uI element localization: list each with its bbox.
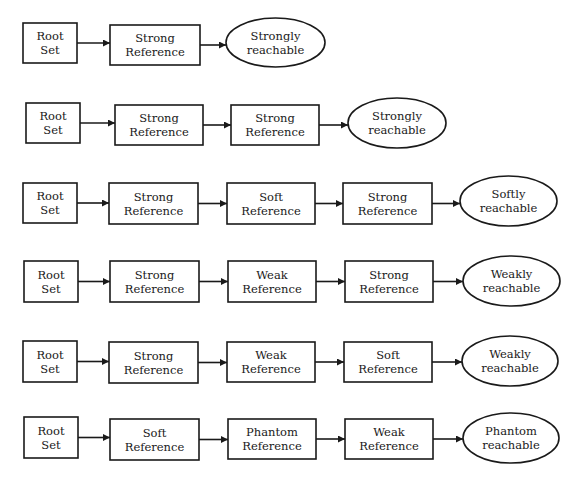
node-label-line: Reference <box>359 282 419 296</box>
node-label-line: reachable <box>482 438 540 452</box>
node-label-line: Reference <box>242 439 302 453</box>
node-label-line: Reference <box>125 282 185 296</box>
node-label-line: Weakly <box>491 267 533 281</box>
node-label-line: Reference <box>358 204 418 218</box>
reference-node-strong-reference: StrongReference <box>110 261 199 302</box>
node-label-line: Strongly <box>251 29 301 43</box>
chain-row: RootSetStrongReferenceWeakReferenceStron… <box>24 256 560 306</box>
node-label-line: Strong <box>139 111 179 125</box>
node-label-line: Reference <box>242 282 302 296</box>
node-label-line: Softly <box>492 187 526 201</box>
reference-node-weak-reference: WeakReference <box>228 261 316 302</box>
node-label-line: Root <box>37 424 65 438</box>
reference-node-strong-reference: StrongReference <box>109 342 198 383</box>
state-node-strongly-reachable: Stronglyreachable <box>348 98 446 148</box>
node-label-line: Reference <box>359 439 419 453</box>
node-label-line: Soft <box>376 348 400 362</box>
state-node-phantom-reachable: Phantomreachable <box>463 413 559 463</box>
state-node-strongly-reachable: Stronglyreachable <box>226 18 325 67</box>
reference-node-phantom-reference: PhantomReference <box>228 419 316 459</box>
node-label-line: Root <box>36 189 64 203</box>
reference-node-strong-reference: StrongReference <box>343 183 432 224</box>
reference-node-soft-reference: SoftReference <box>110 419 199 460</box>
node-label-line: Strong <box>135 268 175 282</box>
node-label-line: Weak <box>373 425 406 439</box>
reference-node-root-set: RootSet <box>24 261 78 302</box>
node-label-line: Phantom <box>246 425 298 439</box>
chain-row: RootSetStrongReferenceStronglyreachable <box>23 18 325 67</box>
node-label-line: Strong <box>368 190 408 204</box>
node-label-line: Reference <box>125 45 185 59</box>
chain-row: RootSetStrongReferenceSoftReferenceStron… <box>23 176 557 226</box>
chain-row: RootSetStrongReferenceStrongReferenceStr… <box>26 98 446 148</box>
node-label-line: Strong <box>255 111 295 125</box>
reference-node-soft-reference: SoftReference <box>344 342 432 382</box>
reference-node-strong-reference: StrongReference <box>109 183 198 224</box>
node-label-line: Reference <box>358 362 418 376</box>
reference-node-root-set: RootSet <box>26 103 80 143</box>
node-label-line: Reference <box>124 204 184 218</box>
node-label-line: Set <box>40 43 60 57</box>
node-label-line: reachable <box>480 201 538 215</box>
reference-node-weak-reference: WeakReference <box>345 419 433 459</box>
node-label-line: Root <box>36 348 64 362</box>
node-label-line: Weak <box>256 268 289 282</box>
node-label-line: Strong <box>134 349 174 363</box>
reference-node-soft-reference: SoftReference <box>227 183 315 224</box>
node-label-line: Root <box>36 29 64 43</box>
reference-node-root-set: RootSet <box>23 183 77 223</box>
node-label-line: Set <box>40 362 60 376</box>
node-label-line: Set <box>40 203 60 217</box>
reference-node-weak-reference: WeakReference <box>227 342 315 382</box>
node-label-line: Strong <box>134 190 174 204</box>
reference-node-strong-reference: StrongReference <box>345 261 433 302</box>
node-label-line: Strongly <box>372 109 422 123</box>
reference-node-root-set: RootSet <box>23 23 77 63</box>
node-label-line: Phantom <box>485 424 537 438</box>
chain-row: RootSetSoftReferencePhantomReferenceWeak… <box>24 413 559 463</box>
node-label-line: Soft <box>143 426 167 440</box>
node-label-line: Root <box>39 109 67 123</box>
reference-node-strong-reference: StrongReference <box>231 105 319 145</box>
node-label-line: reachable <box>481 361 539 375</box>
node-label-line: reachable <box>483 281 541 295</box>
node-label-line: Weakly <box>489 347 531 361</box>
node-label-line: Strong <box>135 31 175 45</box>
node-label-line: Reference <box>245 125 305 139</box>
node-label-line: Reference <box>241 362 301 376</box>
state-node-softly-reachable: Softlyreachable <box>460 176 557 226</box>
node-label-line: Set <box>43 123 63 137</box>
node-label-line: Reference <box>124 363 184 377</box>
chain-row: RootSetStrongReferenceWeakReferenceSoftR… <box>23 336 558 386</box>
node-label-line: Reference <box>129 125 189 139</box>
node-label-line: Set <box>41 282 61 296</box>
state-node-weakly-reachable: Weaklyreachable <box>463 256 560 306</box>
node-label-line: Soft <box>259 190 283 204</box>
node-label-line: Reference <box>241 204 301 218</box>
node-label-line: Root <box>37 268 65 282</box>
node-label-line: reachable <box>368 123 426 137</box>
reference-node-root-set: RootSet <box>24 417 78 458</box>
state-node-weakly-reachable: Weaklyreachable <box>462 336 558 386</box>
reference-node-strong-reference: StrongReference <box>115 105 203 145</box>
node-label-line: Weak <box>255 348 288 362</box>
node-label-line: Strong <box>369 268 409 282</box>
reference-node-root-set: RootSet <box>23 341 77 382</box>
node-label-line: Reference <box>125 440 185 454</box>
node-label-line: Set <box>41 438 61 452</box>
reachability-diagram: RootSetStrongReferenceStronglyreachableR… <box>0 0 581 481</box>
node-label-line: reachable <box>247 43 305 57</box>
reference-node-strong-reference: StrongReference <box>110 25 200 65</box>
